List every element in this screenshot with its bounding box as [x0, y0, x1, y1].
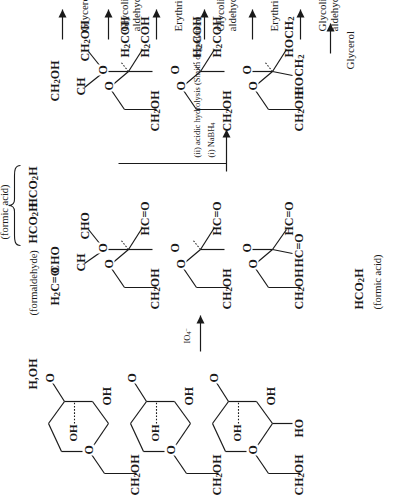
product-label-glycolic-aldehyde-1: Glycolicaldehyde [316, 0, 339, 31]
product-label-erythritol-1: Erythritol [268, 0, 279, 31]
product-arrows [0, 0, 411, 501]
product-label-glycolic-aldehyde-3: Glycolicaldehyde [118, 0, 141, 31]
product-label-glycerol-top: Glycerol [78, 0, 89, 31]
product-label-glycolic-aldehyde-2: Glycolicaldehyde [214, 0, 237, 31]
product-label-glycerol-bottom: Glycerol [344, 31, 355, 69]
figure-canvas: CH2OH CH2OH CH2OH O O O O O O OH OH OH O… [0, 0, 411, 501]
chemistry-reaction-scheme: CH2OH CH2OH CH2OH O O O O O O OH OH OH O… [0, 0, 411, 501]
product-label-erythritol-2: Erythritol [172, 0, 183, 31]
